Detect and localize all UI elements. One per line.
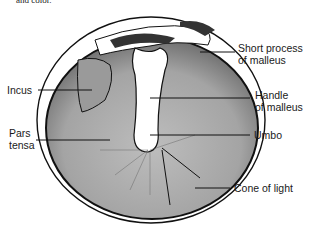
label-handle-of-malleus: Handle of malleus xyxy=(255,89,303,113)
label-umbo: Umbo xyxy=(254,129,282,141)
label-pars-tensa: Pars tensa xyxy=(9,127,35,151)
label-short-process: Short process of malleus xyxy=(238,42,303,66)
label-cone-of-light: Cone of light xyxy=(234,182,293,194)
label-incus: Incus xyxy=(7,84,32,96)
tympanic-membrane-illustration xyxy=(0,0,313,230)
